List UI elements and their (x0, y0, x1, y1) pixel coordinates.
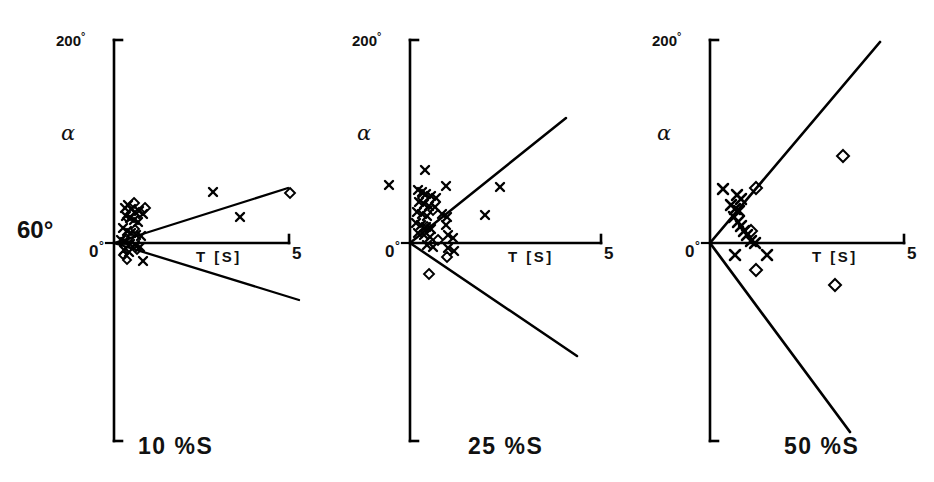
cross-marker (730, 250, 740, 260)
cross-marker (421, 166, 429, 174)
diamond-marker (424, 269, 434, 279)
degree-symbol: ° (81, 30, 85, 42)
degree-symbol: ° (99, 239, 104, 253)
cross-marker (481, 211, 489, 219)
y-axis-top-label: 200° (652, 31, 681, 48)
cross-marker (718, 184, 728, 194)
cross-marker (442, 221, 450, 229)
y-axis-zero-label: 0° (685, 240, 700, 260)
x-axis-end-label: 5 (292, 245, 302, 262)
y-axis-title-alpha: α (657, 123, 672, 144)
panel-50-deg: 200° α 0° T [S] 5 50 %S (622, 0, 934, 482)
degree-symbol: ° (677, 30, 681, 42)
figure-root: 200° α 60° 0° T [S] 5 10 %S (0, 0, 934, 482)
cross-marker-group (385, 166, 504, 255)
cross-marker (139, 257, 147, 265)
panel-25-deg: 200° α 0° T [S] 5 25 %S (311, 0, 622, 482)
cross-marker (385, 181, 393, 189)
panel-25-plot (311, 0, 622, 482)
panel-10-deg: 200° α 60° 0° T [S] 5 10 %S (0, 0, 311, 482)
panel-caption: 25 %S (468, 435, 543, 458)
diamond-marker-group (745, 150, 849, 291)
diamond-marker (837, 150, 849, 162)
cross-marker (209, 188, 217, 196)
sixty-degree-label: 60° (17, 218, 53, 242)
diamond-marker (829, 279, 841, 291)
degree-symbol: ° (695, 239, 700, 253)
x-axis-end-label: 5 (907, 245, 917, 262)
degree-symbol: ° (377, 30, 381, 42)
cross-marker (236, 213, 244, 221)
diamond-marker (750, 264, 762, 276)
panel-caption: 10 %S (138, 435, 213, 458)
cross-marker (736, 194, 746, 204)
panel-caption: 50 %S (784, 435, 859, 458)
y-axis-zero-label: 0° (89, 240, 104, 260)
y-axis-top-label: 200° (56, 31, 85, 48)
y-axis-top-label: 200° (352, 31, 381, 48)
x-axis-label: T [S] (196, 249, 242, 264)
lower-envelope-line (710, 243, 850, 432)
y-axis-title-alpha: α (61, 123, 76, 144)
cross-marker (496, 183, 504, 191)
y-axis-title-alpha: α (357, 123, 372, 144)
x-axis-label: T [S] (508, 249, 554, 264)
x-axis-end-label: 5 (604, 245, 614, 262)
panel-50-plot (622, 0, 934, 482)
cross-marker (442, 182, 450, 190)
x-axis-label: T [S] (812, 249, 858, 264)
upper-envelope-line (410, 118, 566, 243)
degree-symbol: ° (395, 239, 400, 253)
y-axis-zero-label: 0° (385, 240, 400, 260)
cross-marker (762, 250, 772, 260)
